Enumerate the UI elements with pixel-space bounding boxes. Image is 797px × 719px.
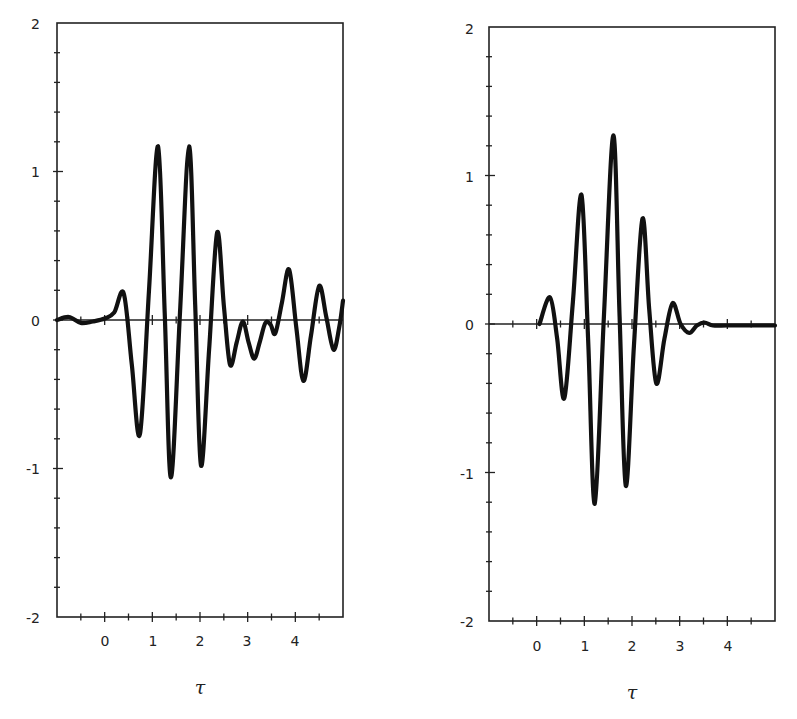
left-xtick-label: 1 [149,633,158,649]
left-plot: 2 1 0 -1 -2 0 1 2 3 4 τ [26,16,343,698]
left-ytick-label: -2 [26,610,40,626]
left-ticks [53,53,319,622]
left-xtick-label: 3 [243,633,252,649]
figure: 2 1 0 -1 -2 0 1 2 3 4 τ 2 1 0 -1 -2 0 1 … [0,0,797,719]
right-xtick-label: 2 [628,638,637,654]
right-xtick-label: 3 [676,638,685,654]
left-ytick-label: -1 [26,461,40,477]
left-ytick-label: 0 [31,313,40,329]
left-xtick-label: 4 [291,633,300,649]
left-xtick-label: 0 [101,633,110,649]
right-xtick-label: 4 [724,638,733,654]
right-ytick-label: 1 [465,169,474,185]
right-ytick-label: -2 [460,614,474,630]
right-xtick-label: 0 [533,638,542,654]
left-ytick-label: 2 [31,16,40,32]
right-ytick-label: 0 [465,317,474,333]
left-ytick-label: 1 [31,164,40,180]
right-ticks [485,57,751,626]
right-ytick-label: 2 [465,21,474,37]
left-waveform-curve [57,146,343,477]
right-ytick-label: -1 [460,466,474,482]
left-x-axis-label: τ [195,676,206,698]
right-x-axis-label: τ [627,681,638,703]
right-plot: 2 1 0 -1 -2 0 1 2 3 4 τ [460,21,775,703]
right-xtick-label: 1 [581,638,590,654]
right-waveform-curve [540,135,776,503]
left-xtick-label: 2 [196,633,205,649]
